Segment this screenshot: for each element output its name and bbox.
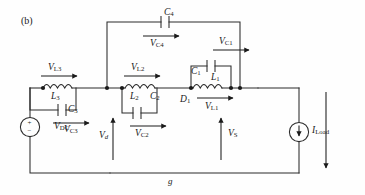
- component-label-l3: L3: [51, 91, 60, 101]
- component-label-c4: C4: [164, 7, 174, 17]
- vdc-minus-sign: −: [28, 127, 32, 135]
- node-l3-left: [41, 86, 45, 90]
- voltage-label-vs: VS: [228, 128, 238, 138]
- component-label-l2: L2: [130, 91, 139, 101]
- voltage-label-vl1: VL1: [205, 101, 218, 111]
- component-label-c3: C3: [68, 104, 78, 114]
- wire-c4-right: [169, 22, 240, 88]
- inductor-l3-coil: [43, 84, 72, 88]
- voltage-label-vc4: VC4: [150, 38, 164, 48]
- node-c1-right: [229, 86, 233, 90]
- component-label-c1: C1: [191, 66, 201, 76]
- circuit-figure: (b) L3 C3 L2 C2 C4 C1 L1 D1 VDC ILoad + …: [0, 0, 365, 195]
- node-c4-right: [238, 86, 242, 90]
- component-label-iload: ILoad: [312, 125, 329, 135]
- voltage-label-vc2: VC2: [135, 128, 149, 138]
- voltage-label-vc1: VC1: [219, 36, 233, 46]
- wire-vdc-to-ground: [30, 137, 110, 173]
- inductor-l1-coil: [193, 84, 222, 88]
- voltage-label-vc3: VC3: [64, 124, 78, 134]
- voltage-label-vl3: VL3: [48, 62, 61, 72]
- node-d1-right: [189, 86, 193, 90]
- voltage-label-vl2: VL2: [131, 62, 144, 72]
- component-label-c2: C2: [150, 91, 160, 101]
- node-l2-left: [120, 86, 124, 90]
- component-label-l1: L1: [211, 72, 220, 82]
- wire-c4-left: [107, 22, 161, 88]
- node-c4-tap: [105, 86, 109, 90]
- ground-label: g: [168, 176, 173, 186]
- inductor-l2-coil: [125, 84, 155, 88]
- panel-label: (b): [21, 15, 33, 26]
- voltage-label-vd: Vd: [99, 130, 108, 140]
- vdc-plus-sign: +: [28, 119, 32, 127]
- component-label-d1: D1: [180, 94, 190, 104]
